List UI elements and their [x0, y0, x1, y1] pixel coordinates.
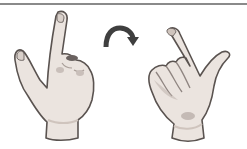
right-hand-tilted-icon — [142, 20, 242, 145]
rotate-clockwise-arrow-icon — [103, 25, 139, 49]
top-border-rule — [0, 3, 247, 5]
left-hand-pointing-icon — [12, 8, 102, 144]
